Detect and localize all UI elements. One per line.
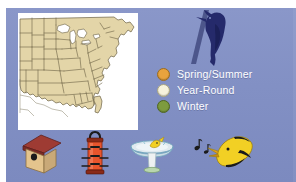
birdbath-icon[interactable] [128, 131, 176, 177]
feeder-cap [87, 138, 103, 142]
map-svg [18, 13, 138, 130]
birdhouse-side [44, 149, 56, 173]
circle-icon [157, 68, 170, 81]
birdhouse-hole [31, 154, 37, 161]
legend: Spring/Summer Year-Round Winter [157, 66, 289, 114]
woodpecker-eye [209, 17, 211, 19]
legend-item-spring-summer[interactable]: Spring/Summer [157, 66, 289, 82]
feeder-base [86, 170, 104, 174]
woodpecker-illustration [186, 8, 248, 66]
lake-michigan [70, 30, 76, 44]
singing-goldfinch-icon[interactable] [188, 132, 254, 174]
music-notes-icon [194, 139, 211, 154]
left-margin [0, 0, 6, 182]
birdhouse-svg [20, 132, 64, 176]
legend-item-year-round[interactable]: Year-Round [157, 82, 289, 98]
legend-item-label: Winter [177, 100, 209, 112]
tube-feeder-svg [78, 129, 112, 179]
birdhouse-icon[interactable] [20, 132, 64, 176]
circle-icon [157, 100, 170, 113]
woodpecker-svg [186, 8, 248, 66]
legend-item-winter[interactable]: Winter [157, 98, 289, 114]
legend-item-label: Spring/Summer [177, 68, 253, 80]
birdbath-svg [128, 131, 176, 177]
tube-feeder-icon[interactable] [78, 129, 112, 179]
circle-icon [157, 84, 170, 97]
birdbath-base [144, 167, 160, 172]
figure-root: Spring/Summer Year-Round Winter [0, 0, 296, 182]
birdbath-pedestal [148, 153, 156, 169]
goldfinch-head [208, 137, 252, 167]
top-margin [0, 0, 296, 8]
goldfinch-svg [188, 132, 254, 174]
range-map[interactable] [18, 13, 138, 130]
legend-item-label: Year-Round [177, 84, 235, 96]
